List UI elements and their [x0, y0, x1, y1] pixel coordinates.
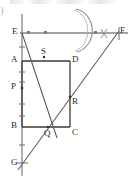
- diagonal-E-to-Q: [22, 33, 57, 138]
- point-dot-R: [69, 96, 71, 98]
- tick-EF-0: [27, 31, 30, 34]
- geometry-canvas: [0, 0, 136, 178]
- point-label-Q: Q: [44, 129, 51, 138]
- construction-arc: [76, 9, 92, 52]
- point-label-B: B: [11, 121, 17, 130]
- construction-arc-inner: [74, 10, 88, 51]
- point-label-D: D: [72, 55, 79, 64]
- geometry-figure: ): [0, 0, 136, 178]
- point-label-R: R: [72, 97, 78, 106]
- point-label-C: C: [72, 128, 78, 137]
- point-dot-S: [43, 56, 45, 58]
- point-label-F: F: [120, 26, 125, 35]
- point-label-S: S: [41, 47, 46, 56]
- point-label-A: A: [11, 55, 18, 64]
- tick-EF-1: [44, 31, 47, 34]
- point-dot-P: [21, 87, 24, 90]
- point-label-G: G: [11, 158, 18, 167]
- point-label-E: E: [12, 27, 18, 36]
- tick-EF-2: [94, 31, 97, 34]
- diagonal-G-to-F: [18, 31, 119, 170]
- point-label-P: P: [11, 82, 16, 91]
